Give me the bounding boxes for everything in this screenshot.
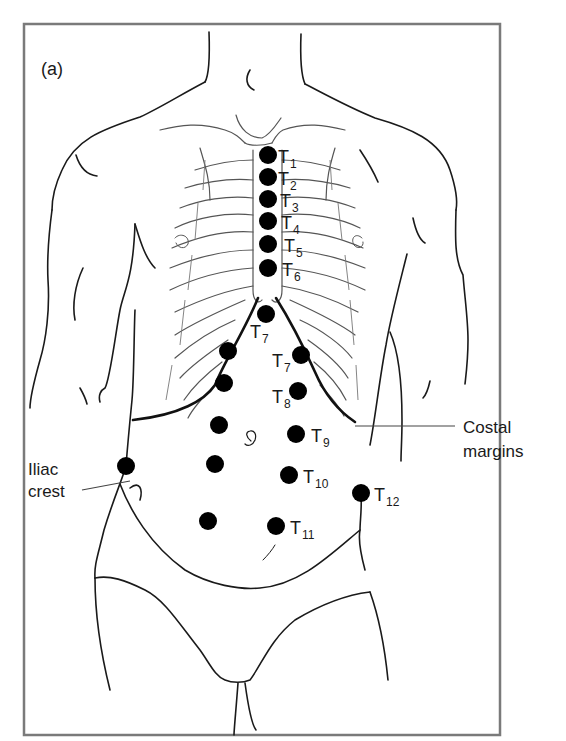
nerve-point-t7b <box>292 346 310 364</box>
nerve-point-t2 <box>259 168 277 186</box>
nerve-label-t8: T <box>272 387 283 407</box>
nerve-point-unlabeled <box>117 457 135 475</box>
ribs-left <box>166 148 253 418</box>
iliac-crest-leader <box>82 481 130 490</box>
nerve-label-t11: T <box>290 518 301 538</box>
nerve-label-subscript: 5 <box>296 246 303 260</box>
nerve-point-unlabeled <box>199 512 217 530</box>
nerve-label-subscript: 9 <box>323 436 330 450</box>
nerve-label-subscript: 12 <box>386 495 400 509</box>
body-outline <box>30 32 468 735</box>
nerve-label-subscript: 10 <box>315 477 329 491</box>
nerve-point-unlabeled <box>206 455 224 473</box>
panel-label: (a) <box>41 59 63 79</box>
nerve-label-t10: T <box>303 467 314 487</box>
nerve-label-t5: T <box>284 236 295 256</box>
nerve-point-t8 <box>289 382 307 400</box>
nerve-point-unlabeled <box>219 342 237 360</box>
nerve-point-t7a <box>257 305 275 323</box>
nerve-label-subscript: 7 <box>262 332 269 346</box>
nerve-label-t4: T <box>281 213 292 233</box>
iliac-crest-label-line1: Iliac <box>28 460 59 479</box>
nerve-point-t6 <box>259 259 277 277</box>
nerve-label-t7b: T <box>272 351 283 371</box>
nerve-point-t5 <box>259 235 277 253</box>
iliac-crest-label-line2: crest <box>28 482 65 501</box>
nerve-point-unlabeled <box>215 374 233 392</box>
nerve-point-t4 <box>259 212 277 230</box>
nerve-label-t9: T <box>311 426 322 446</box>
nerve-point-t12 <box>352 484 370 502</box>
nerve-point-t9 <box>287 425 305 443</box>
nerve-label-t3: T <box>280 191 291 211</box>
nerve-point-t3 <box>259 190 277 208</box>
nerve-label-t2: T <box>278 169 289 189</box>
clavicles <box>160 115 345 145</box>
costal-margins-label-line1: Costal <box>463 418 511 437</box>
nerve-label-subscript: 6 <box>294 270 301 284</box>
figure-frame <box>24 24 500 735</box>
nerve-point-t10 <box>280 466 298 484</box>
nerve-point-t11 <box>267 517 285 535</box>
nerve-points: T1T2T3T4T5T6T7T7T8T9T10T11T12 <box>117 146 400 542</box>
nerve-label-subscript: 1 <box>290 157 297 171</box>
costal-margins-label-line2: margins <box>463 442 523 461</box>
nerve-label-subscript: 2 <box>290 179 297 193</box>
nerve-label-subscript: 8 <box>284 397 291 411</box>
nerve-label-t7a: T <box>250 322 261 342</box>
nerve-label-subscript: 7 <box>284 361 291 375</box>
nerve-label-subscript: 4 <box>293 223 300 237</box>
nerve-label-t6: T <box>282 260 293 280</box>
nerve-point-unlabeled <box>210 416 228 434</box>
costal-margin-lines <box>133 298 355 422</box>
nerve-label-subscript: 3 <box>292 201 299 215</box>
nerve-label-t12: T <box>374 485 385 505</box>
nerve-point-t1 <box>259 146 277 164</box>
torso-diagram: (a) <box>0 0 566 741</box>
nerve-label-t1: T <box>278 147 289 167</box>
nerve-label-subscript: 11 <box>302 528 315 542</box>
